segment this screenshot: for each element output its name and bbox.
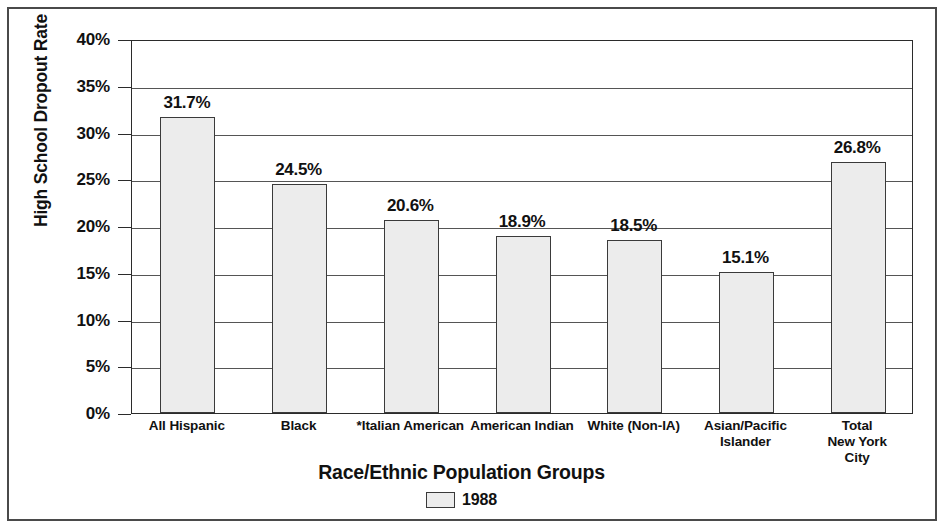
y-axis-tick-label: 30%: [56, 124, 110, 144]
x-axis-category-label: Total New York City: [824, 418, 890, 465]
y-axis-title: High School Dropout Rate: [31, 6, 52, 236]
gridline: [132, 88, 912, 89]
y-axis-tick: [118, 227, 131, 228]
y-axis-tick-label: 10%: [56, 311, 110, 331]
y-axis-tick: [118, 274, 131, 275]
bar: [831, 162, 886, 413]
bar-value-label: 15.1%: [722, 248, 769, 268]
bar-value-label: 18.5%: [610, 216, 657, 236]
y-axis-tick: [118, 180, 131, 181]
y-axis-tick-label: 35%: [56, 77, 110, 97]
x-axis-category-label: Asian/Pacific Islander: [704, 418, 787, 450]
legend-swatch-1988: [426, 492, 455, 508]
gridline: [132, 181, 912, 182]
x-axis-category-label: White (Non-IA): [588, 418, 680, 434]
bar: [160, 117, 215, 413]
bar-value-label: 24.5%: [275, 160, 322, 180]
y-axis-tick: [118, 367, 131, 368]
y-axis-tick: [118, 321, 131, 322]
x-axis-category-label: Black: [281, 418, 317, 434]
y-axis-tick-label: 15%: [56, 264, 110, 284]
x-axis-title: Race/Ethnic Population Groups: [0, 461, 923, 484]
y-axis-tick: [118, 414, 131, 415]
y-axis-tick: [118, 87, 131, 88]
chart-legend: 1988: [0, 491, 923, 509]
bar-value-label: 18.9%: [499, 212, 546, 232]
bar-value-label: 31.7%: [163, 93, 210, 113]
bar-value-label: 20.6%: [387, 196, 434, 216]
y-axis-tick-label: 25%: [56, 170, 110, 190]
y-axis-tick: [118, 40, 131, 41]
bar: [719, 272, 774, 413]
y-axis-tick-label: 20%: [56, 217, 110, 237]
y-axis-tick: [118, 134, 131, 135]
x-axis-category-label: All Hispanic: [149, 418, 225, 434]
bar: [272, 184, 327, 413]
y-axis-tick-labels: 0%5%10%15%20%25%30%35%40%: [50, 40, 110, 414]
bar: [384, 220, 439, 413]
x-axis-category-label: *Italian American: [357, 418, 464, 434]
bar: [496, 236, 551, 413]
legend-label-1988: 1988: [462, 491, 497, 509]
y-axis-tick-label: 40%: [56, 30, 110, 50]
x-axis-category-label: American Indian: [470, 418, 574, 434]
gridline: [132, 135, 912, 136]
bar-value-label: 26.8%: [834, 138, 881, 158]
y-axis-tick-label: 5%: [56, 357, 110, 377]
bar: [607, 240, 662, 413]
y-axis-tick-label: 0%: [56, 404, 110, 424]
